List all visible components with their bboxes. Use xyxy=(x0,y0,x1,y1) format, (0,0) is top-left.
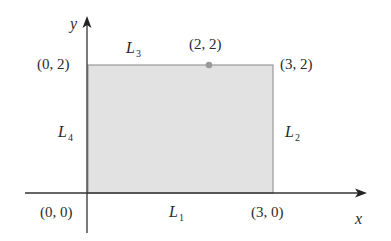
edge-label-L4-name: L xyxy=(58,123,67,140)
vertex-label-bottom-right: (3, 0) xyxy=(251,205,284,220)
x-axis-label: x xyxy=(355,211,362,227)
edge-label-L3: L3 xyxy=(126,40,141,59)
edge-label-L1: L1 xyxy=(169,204,184,223)
edge-label-L4-sub: 4 xyxy=(68,132,73,143)
edge-label-L4: L4 xyxy=(58,124,73,143)
y-axis-label: y xyxy=(70,16,77,32)
edge-label-L3-name: L xyxy=(126,39,135,56)
vertex-label-top-left: (0, 2) xyxy=(37,57,70,72)
point-label: (2, 2) xyxy=(189,37,222,52)
region-diagram: y x (0, 2) (3, 2) (0, 0) (3, 0) (2, 2) L… xyxy=(0,0,391,241)
edge-label-L1-sub: 1 xyxy=(179,212,184,223)
shaded-region xyxy=(88,65,273,193)
edge-label-L2-sub: 2 xyxy=(295,132,300,143)
edge-label-L3-sub: 3 xyxy=(136,48,141,59)
point-marker xyxy=(206,62,213,69)
vertex-label-origin: (0, 0) xyxy=(40,205,73,220)
edge-label-L2: L2 xyxy=(285,124,300,143)
vertex-label-top-right: (3, 2) xyxy=(280,57,313,72)
edge-label-L1-name: L xyxy=(169,203,178,220)
edge-label-L2-name: L xyxy=(285,123,294,140)
